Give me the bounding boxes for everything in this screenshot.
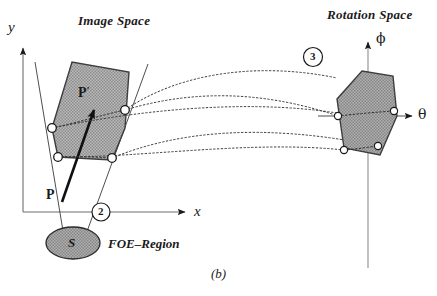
x-axis-label: x	[194, 204, 201, 219]
rotation-space-title: Rotation Space	[327, 8, 412, 21]
vertex-marker-image-bottom-left	[54, 153, 63, 162]
marker-badge-3-text: 3	[310, 51, 316, 62]
connector-curve-1	[125, 71, 337, 110]
connector-curve-2	[125, 96, 338, 116]
marker-badge-2-text: 2	[98, 206, 104, 217]
rotation-space-polygon	[337, 71, 397, 155]
vertex-marker-image-bottom-right	[108, 154, 117, 163]
image-space-title: Image Space	[78, 14, 150, 27]
phi-axis-label: ϕ	[376, 31, 386, 45]
figure-container: Image Space Rotation Space y x ϕ θ P′ P …	[0, 0, 437, 296]
image-space-polygon-group	[52, 62, 129, 160]
figure-caption: (b)	[0, 266, 437, 282]
vertex-marker-rotation-left	[334, 112, 341, 119]
foe-ellipse-label: S	[68, 236, 75, 249]
connector-curve-4	[112, 132, 378, 158]
point-p-prime-label: P′	[78, 86, 90, 100]
theta-axis-label: θ	[418, 107, 426, 121]
vertex-marker-image-right	[121, 106, 130, 115]
point-p-prime-mark: ′	[87, 84, 90, 96]
vertex-marker-image-left	[48, 124, 57, 133]
foe-region-label: FOE–Region	[108, 237, 180, 250]
rotation-space-polygon-group	[337, 71, 397, 155]
y-axis-label: y	[8, 20, 15, 35]
diagram-canvas	[0, 0, 437, 296]
vertex-marker-rotation-bottom-left	[340, 146, 347, 153]
point-p-label: P	[46, 188, 55, 202]
vertex-marker-rotation-bottom-mid	[374, 142, 381, 149]
vertex-marker-rotation-right	[390, 107, 397, 114]
image-space-polygon	[52, 62, 129, 160]
point-p-prime-letter: P	[78, 85, 87, 100]
